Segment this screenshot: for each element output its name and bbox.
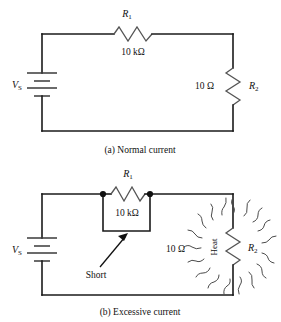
circuit-b-r1-symbol bbox=[111, 187, 145, 201]
circuit-b-r2-label: R2 bbox=[247, 242, 258, 255]
heat-radiation-rays bbox=[184, 198, 276, 294]
circuit-b-r1-label: R1 bbox=[122, 168, 133, 181]
circuit-a-battery-symbol bbox=[27, 73, 57, 96]
circuit-a-source-label: VS bbox=[12, 79, 22, 92]
circuit-a-r1-label: R1 bbox=[121, 8, 132, 21]
circuit-a-r1-symbol bbox=[114, 27, 152, 41]
short-label: Short bbox=[86, 270, 107, 280]
heat-label: Heat bbox=[209, 238, 219, 255]
circuit-b-node-dot-left bbox=[100, 191, 106, 197]
circuit-b-source-label: VS bbox=[12, 244, 22, 257]
circuit-a-r2-symbol bbox=[226, 68, 240, 105]
circuit-b-r1-value: 10 kΩ bbox=[115, 208, 139, 218]
circuit-a-r1-value: 10 kΩ bbox=[121, 47, 145, 57]
short-arrow bbox=[100, 233, 128, 267]
circuit-b-node-dot-right bbox=[147, 191, 153, 197]
circuit-b-r2-symbol bbox=[226, 228, 240, 265]
circuit-b-caption: (b) Excessive current bbox=[100, 307, 181, 318]
circuit-a-r2-value: 10 Ω bbox=[195, 81, 214, 91]
circuit-figure: VS R1 10 kΩ 10 Ω R2 (a) Normal current bbox=[0, 0, 281, 322]
circuit-a-caption: (a) Normal current bbox=[104, 145, 176, 156]
circuit-a-group: VS R1 10 kΩ 10 Ω R2 (a) Normal current bbox=[12, 8, 259, 156]
circuit-b-group: VS R1 10 kΩ Short 10 Ω Heat R2 (b) Exces… bbox=[12, 168, 276, 318]
circuit-b-battery-symbol bbox=[27, 238, 57, 261]
circuit-b-r2-value: 10 Ω bbox=[166, 244, 185, 254]
circuit-a-r2-label: R2 bbox=[248, 80, 259, 93]
